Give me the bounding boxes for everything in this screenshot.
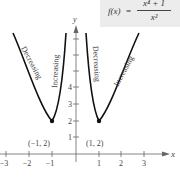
y-axis-arrow-icon bbox=[74, 25, 79, 33]
x-axis-label: x bbox=[170, 149, 175, 159]
min-point-left bbox=[50, 119, 54, 123]
function-plot: x y −3 −2 −1 1 2 3 1 2 3 4 (−1 bbox=[0, 0, 180, 184]
formula-equals: = bbox=[126, 6, 131, 16]
formula-lhs: f(x) bbox=[108, 6, 121, 16]
x-tick-label: −3 bbox=[0, 159, 8, 168]
x-tick-label: 2 bbox=[119, 159, 123, 168]
annotation-increasing-left: Increasing bbox=[50, 54, 61, 88]
formula-box: f(x) = x⁴ + 1 x² bbox=[100, 0, 180, 27]
annotation-decreasing-left: Decreasing bbox=[19, 45, 44, 81]
point-label-left: (−1, 2) bbox=[28, 139, 50, 148]
fraction-bar bbox=[137, 10, 171, 11]
y-tick-label: 3 bbox=[68, 100, 72, 109]
x-tick-label: 3 bbox=[142, 159, 146, 168]
formula-denominator: x² bbox=[136, 12, 172, 22]
min-point-right bbox=[97, 119, 101, 123]
x-axis-arrow-icon bbox=[162, 152, 170, 157]
annotation-increasing-right: Increasing bbox=[112, 54, 136, 88]
point-label-right: (1, 2) bbox=[86, 139, 104, 148]
formula-numerator: x⁴ + 1 bbox=[136, 0, 172, 8]
y-tick-label: 4 bbox=[68, 83, 72, 92]
y-tick-label: 1 bbox=[68, 133, 72, 142]
y-tick-label: 2 bbox=[68, 117, 72, 126]
y-axis-label: y bbox=[72, 15, 77, 24]
annotation-decreasing-right: Decreasing bbox=[91, 46, 102, 82]
x-tick-label: −2 bbox=[23, 159, 32, 168]
x-tick-label: −1 bbox=[46, 159, 55, 168]
x-tick-label: 1 bbox=[97, 159, 101, 168]
